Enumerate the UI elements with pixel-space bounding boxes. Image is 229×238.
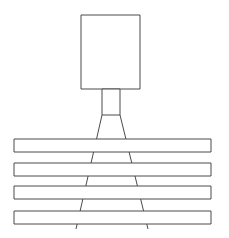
bar-1-rect <box>14 139 211 152</box>
diagram-canvas: Sensor projecting beam across stacked ba… <box>0 0 229 238</box>
bar-4-rect <box>14 211 211 224</box>
emitter-neck-rect <box>102 89 120 115</box>
emitter-body-rect <box>81 15 140 89</box>
bar-3-rect <box>14 186 211 199</box>
bar-2-rect <box>14 163 211 176</box>
sensor-beam-diagram: Sensor projecting beam across stacked ba… <box>0 0 229 238</box>
